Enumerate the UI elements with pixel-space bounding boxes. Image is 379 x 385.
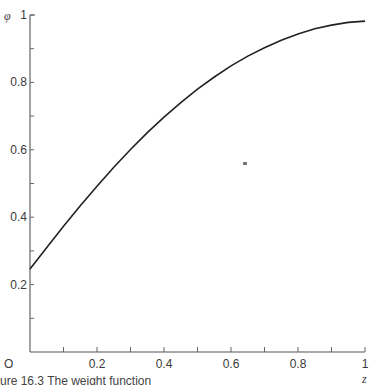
phi-curve [30,21,365,269]
y-axis-label: φ [4,9,11,23]
ticks [30,15,365,352]
scan-speck [243,162,247,165]
x-tick-label: 0.6 [223,357,240,371]
chart: 0.20.40.60.810.20.40.60.81 φ z O [0,0,379,385]
figure-caption: ure 16.3 The weight function [0,374,151,385]
x-tick-label: 0.8 [290,357,307,371]
x-tick-label: 1 [362,357,369,371]
origin-label: O [4,357,13,371]
tick-labels: 0.20.40.60.810.20.40.60.81 [10,8,368,371]
y-tick-label: 1 [20,8,27,22]
y-tick-label: 0.2 [10,278,27,292]
x-axis-label: z [361,372,367,385]
y-tick-label: 0.8 [10,75,27,89]
x-tick-label: 0.2 [89,357,106,371]
axes [30,15,365,352]
y-tick-label: 0.4 [10,210,27,224]
y-tick-label: 0.6 [10,143,27,157]
x-tick-label: 0.4 [156,357,173,371]
